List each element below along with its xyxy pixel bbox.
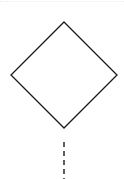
- diagram-canvas: [0, 0, 124, 179]
- top-dotted-border: [0, 1, 124, 2]
- diagram-svg: [0, 0, 124, 179]
- decision-diamond[interactable]: [11, 22, 117, 128]
